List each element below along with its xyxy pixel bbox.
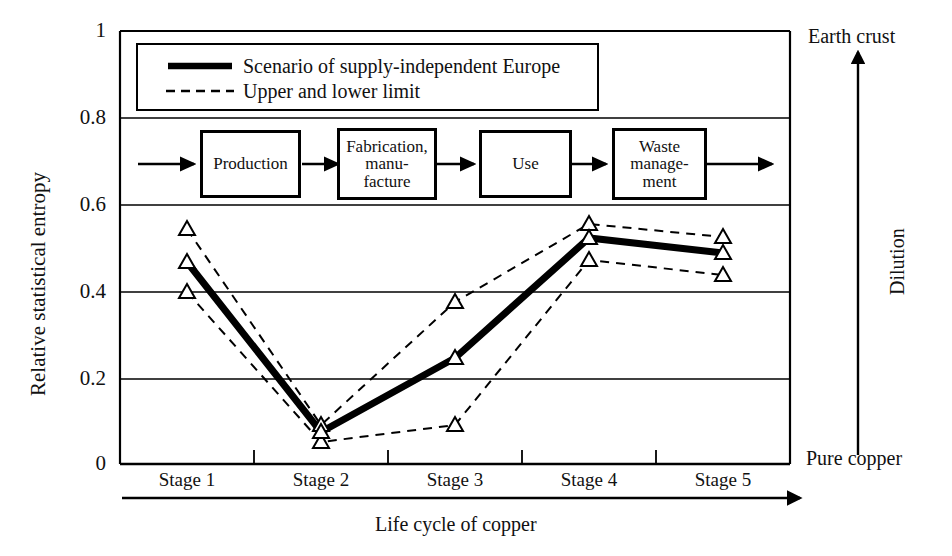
legend-item-scenario-label: Scenario of supply-independent Europe: [243, 55, 560, 78]
x-tick-label-stage-5: Stage 5: [653, 470, 793, 489]
process-box-line: Production: [213, 155, 288, 172]
y-tick-label-1: 1: [36, 20, 106, 41]
x-tick-label-stage-3: Stage 3: [385, 470, 525, 489]
series-upper-limit-markers: [179, 216, 731, 431]
process-box-line: ment: [630, 173, 689, 190]
y-tick-label-0: 0: [36, 453, 106, 474]
process-box-waste-management: Waste manage- ment: [612, 128, 707, 200]
series-scenario-line: [187, 238, 723, 432]
x-tick-label-stage-4: Stage 4: [519, 470, 659, 489]
series-upper-limit-line: [187, 224, 723, 425]
process-box-line: Use: [512, 155, 538, 172]
x-tick-marks: [254, 450, 656, 464]
x-tick-label-stage-1: Stage 1: [117, 470, 257, 489]
process-box-use: Use: [479, 130, 572, 198]
figure-canvas: Scenario of supply-independent Europe Up…: [0, 0, 952, 556]
x-axis-title: Life cycle of copper: [375, 513, 537, 536]
process-box-fabrication: Fabrication, manu- facture: [337, 128, 437, 200]
process-box-production: Production: [200, 130, 301, 198]
process-box-line: manage-: [630, 155, 689, 172]
annotation-pure-copper: Pure copper: [806, 448, 902, 468]
process-box-line: manu-: [346, 155, 428, 172]
annotation-dilution: Dilution: [886, 228, 909, 295]
x-tick-label-stage-2: Stage 2: [251, 470, 391, 489]
process-box-line: Fabrication,: [346, 138, 428, 155]
y-axis-title: Relative statistical entropy: [26, 172, 51, 396]
y-tick-label-0-8: 0.8: [36, 107, 106, 128]
legend-item-limits-label: Upper and lower limit: [243, 80, 420, 103]
annotation-earth-crust: Earth crust: [808, 26, 895, 46]
process-box-line: facture: [346, 173, 428, 190]
process-box-line: Waste: [630, 138, 689, 155]
series-scenario-markers: [179, 230, 731, 438]
